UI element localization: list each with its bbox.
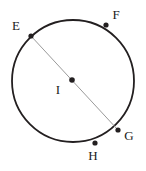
point-marker-e: [28, 33, 33, 38]
diagram-canvas: E F G H I: [0, 0, 146, 171]
point-label-f: F: [112, 7, 119, 22]
point-label-g: G: [124, 128, 133, 143]
point-label-h: H: [88, 148, 97, 163]
point-label-e: E: [12, 18, 20, 33]
point-marker-f: [103, 22, 108, 27]
point-marker-h: [92, 140, 97, 145]
point-label-i: I: [56, 82, 60, 97]
figure-background: [0, 0, 146, 171]
point-marker-i-center: [69, 77, 75, 83]
point-marker-g: [115, 127, 120, 132]
circle-diagram-figure: E F G H I: [0, 0, 146, 171]
